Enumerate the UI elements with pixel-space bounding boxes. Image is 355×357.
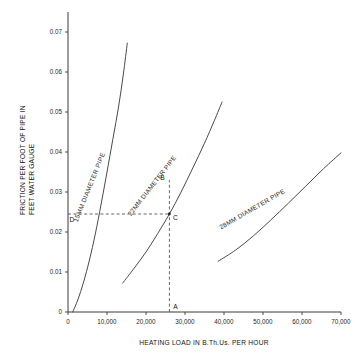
y-axis-title-line1: FRICTION PER FOOT OF PIPE IN [19,105,26,215]
x-tick-label: 0 [66,318,70,325]
y-tick-label: 0.04 [50,148,63,155]
y-tick-label: 0.05 [50,108,63,115]
annotation-point-c: C [173,214,178,221]
pipe-friction-chart: 00.010.020.030.040.050.060.07 010,00020,… [0,0,355,357]
intersection-marker-c [168,213,171,216]
x-tick-label: 50,000 [253,318,273,325]
y-tick-label: 0.03 [50,188,63,195]
y-tick-label: 0 [58,308,62,315]
x-axis-title: HEATING LOAD IN B.Th.Us. PER HOUR [139,339,268,346]
x-tick-label: 70,000 [331,318,351,325]
x-tick-label: 20,000 [136,318,156,325]
y-tick-label: 0.01 [50,268,63,275]
annotation-point-a: A [173,303,178,310]
annotation-point-d: D [70,216,75,223]
x-tick-label: 10,000 [97,318,117,325]
x-tick-label: 60,000 [292,318,312,325]
y-tick-label: 0.02 [50,228,63,235]
y-axis-title-line2: FEET WATER GAUGE [28,143,35,215]
chart-svg: 00.010.020.030.040.050.060.07 010,00020,… [0,0,355,357]
x-tick-label: 30,000 [175,318,195,325]
y-tick-label: 0.07 [50,28,63,35]
y-tick-label: 0.06 [50,68,63,75]
annotation-point-b: B [160,174,165,181]
x-tick-label: 40,000 [214,318,234,325]
